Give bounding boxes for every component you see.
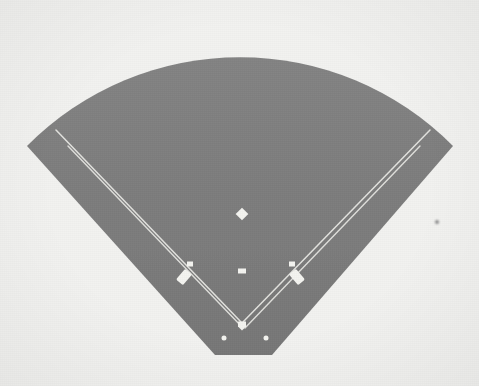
third-base-marker	[187, 262, 193, 267]
on-deck-circle-right-marker	[264, 336, 269, 341]
on-deck-circle-left-marker	[222, 336, 227, 341]
pitchers-rubber-marker	[238, 269, 246, 274]
field-svg	[0, 0, 479, 386]
scan-speck-icon	[435, 220, 439, 224]
playing-surface	[27, 57, 453, 355]
first-base-marker	[289, 262, 295, 267]
field-fill	[27, 57, 453, 355]
baseball-field-diagram	[0, 0, 479, 386]
